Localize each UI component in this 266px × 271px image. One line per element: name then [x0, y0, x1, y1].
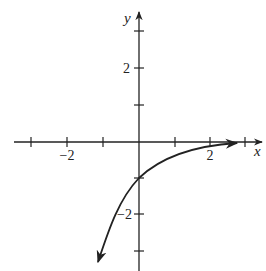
y-tick-label-2: 2	[123, 61, 130, 76]
graph: −2 2 2 −2 x y	[0, 0, 266, 271]
y-axis-label: y	[122, 10, 131, 26]
x-tick-label-2: 2	[207, 148, 214, 163]
x-tick-label-neg2: −2	[60, 148, 75, 163]
x-axis-label: x	[253, 143, 261, 159]
y-tick-label-neg2: −2	[117, 207, 132, 222]
curve-neg-exp	[98, 143, 237, 262]
